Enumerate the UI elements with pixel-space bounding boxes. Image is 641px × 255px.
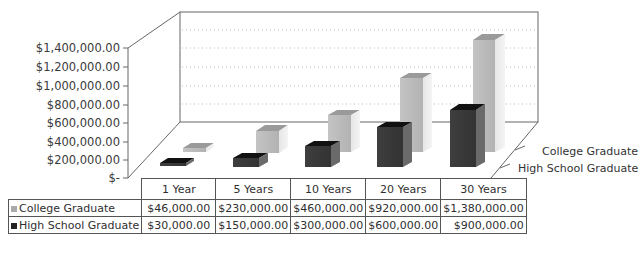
legend-label: High School Graduate <box>19 219 139 232</box>
table-cell: $230,000.00 <box>216 200 291 217</box>
table-cell: $1,380,000.00 <box>441 200 526 217</box>
table-cell: $900,000.00 <box>441 217 526 234</box>
table-header-row: 1 Year 5 Years 10 Years 20 Years 30 Year… <box>9 179 527 200</box>
series-high-school-graduate <box>160 104 485 167</box>
table-cell: $920,000.00 <box>366 200 441 217</box>
table-header-cell: 5 Years <box>216 179 291 200</box>
table-row: College Graduate $46,000.00 $230,000.00 … <box>9 200 527 217</box>
data-table: 1 Year 5 Years 10 Years 20 Years 30 Year… <box>8 178 527 234</box>
table-cell: $46,000.00 <box>142 200 216 217</box>
table-cell: $460,000.00 <box>291 200 366 217</box>
depth-label-college: College Graduate <box>542 145 638 158</box>
table-cell: $150,000.00 <box>216 217 291 234</box>
table-cell: $300,000.00 <box>291 217 366 234</box>
table-cell: $30,000.00 <box>142 217 216 234</box>
table-header-cell: 30 Years <box>441 179 526 200</box>
table-cell: $600,000.00 <box>366 217 441 234</box>
legend-label: College Graduate <box>19 202 115 215</box>
table-header-cell: 10 Years <box>291 179 366 200</box>
table-header-cell: 20 Years <box>366 179 441 200</box>
table-header-cell: 1 Year <box>142 179 216 200</box>
legend-swatch-high-school <box>11 223 17 229</box>
depth-label-high-school: High School Graduate <box>518 162 638 175</box>
legend-swatch-college <box>11 206 17 212</box>
table-row: High School Graduate $30,000.00 $150,000… <box>9 217 527 234</box>
